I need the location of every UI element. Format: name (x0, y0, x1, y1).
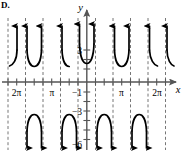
curve-branch-lower (27, 115, 42, 132)
curve-branch-upper (62, 50, 69, 67)
y-tick-label: −6 (72, 140, 82, 150)
trig-graph-svg: 2π π π 2π 3 −1 −3 −6 y x (0, 0, 185, 156)
y-tick-label: −1 (72, 88, 82, 98)
x-tick-label: π (50, 88, 55, 98)
curve-branch-upper (10, 50, 18, 66)
x-axis-label: x (175, 84, 181, 95)
curve-branch-upper (167, 50, 174, 66)
y-tick-label: 3 (77, 46, 82, 56)
graph-panel: D. (0, 0, 185, 156)
x-tick-label: π (119, 88, 124, 98)
x-tick-label: 2π (152, 88, 162, 98)
curve-branch-upper (115, 50, 130, 67)
x-tick-label: 2π (12, 88, 22, 98)
curve-branch-upper (27, 50, 42, 67)
y-tick-label: −3 (72, 107, 82, 117)
curve-branch-lower (97, 115, 112, 132)
upper-branch-group (10, 24, 175, 67)
curve-branch-lower (132, 115, 147, 132)
y-axis-label: y (77, 2, 83, 13)
curve-branch-upper (150, 50, 158, 66)
